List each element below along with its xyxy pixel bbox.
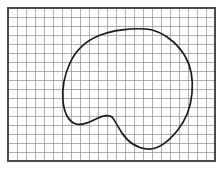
graph-paper-figure [0, 0, 223, 175]
figure-root [0, 0, 223, 175]
